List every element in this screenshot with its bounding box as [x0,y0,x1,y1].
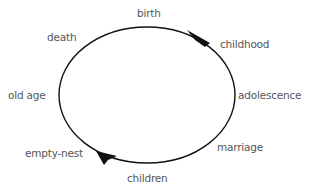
stage-children: children [127,172,168,184]
cycle-ellipse [59,27,235,163]
stage-childhood: childhood [220,38,269,50]
stage-birth: birth [137,7,161,19]
arrow-head-top-icon [187,30,210,47]
stage-empty-nest: empty-nest [25,147,83,159]
stage-death: death [47,31,76,43]
stage-marriage: marriage [217,141,263,153]
stage-adolescence: adolescence [238,89,301,101]
stage-old-age: old age [8,89,46,101]
